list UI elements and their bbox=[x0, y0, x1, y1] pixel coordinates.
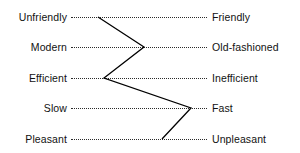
scale-label-right: Inefficient bbox=[212, 71, 258, 85]
scale-label-left: Efficient bbox=[0, 71, 67, 85]
scale-row: Unfriendly Friendly bbox=[0, 10, 300, 24]
scale-label-left: Pleasant bbox=[0, 132, 67, 146]
scale-label-right: Unpleasant bbox=[212, 132, 266, 146]
scale-axis-dotted-line bbox=[71, 17, 207, 18]
scale-label-right: Friendly bbox=[212, 10, 250, 24]
scale-label-right: Fast bbox=[212, 101, 233, 115]
scale-row: Slow Fast bbox=[0, 101, 300, 115]
scale-label-right: Old-fashioned bbox=[212, 40, 279, 54]
scale-label-left: Unfriendly bbox=[0, 10, 67, 24]
scale-row: Modern Old-fashioned bbox=[0, 40, 300, 54]
scale-axis-dotted-line bbox=[71, 78, 207, 79]
scale-row: Efficient Inefficient bbox=[0, 71, 300, 85]
scale-axis-dotted-line bbox=[71, 47, 207, 48]
scale-label-left: Modern bbox=[0, 40, 67, 54]
scale-axis-dotted-line bbox=[71, 108, 207, 109]
scale-label-left: Slow bbox=[0, 101, 67, 115]
scale-axis-dotted-line bbox=[71, 139, 207, 140]
scale-row: Pleasant Unpleasant bbox=[0, 132, 300, 146]
semantic-differential-chart: Unfriendly Friendly Modern Old-fashioned… bbox=[0, 0, 300, 153]
